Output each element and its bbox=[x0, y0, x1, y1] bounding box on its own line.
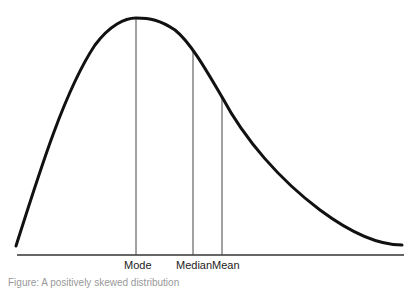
mode-label: Mode bbox=[124, 259, 152, 272]
mean-label: Mean bbox=[212, 259, 240, 272]
distribution-curve bbox=[16, 18, 402, 246]
median-label: Median bbox=[176, 259, 212, 272]
figure-caption: Figure: A positively skewed distribution bbox=[8, 277, 179, 289]
